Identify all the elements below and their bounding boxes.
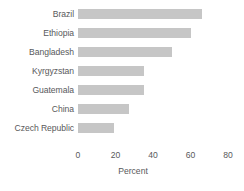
bar-bangladesh [78, 47, 172, 57]
bar-brazil [78, 9, 202, 19]
bar-row: Kyrgyzstan [0, 61, 244, 80]
x-tick-label: 0 [76, 150, 81, 160]
category-label: Guatemala [32, 85, 74, 95]
x-axis: 0 20 40 60 80 [0, 150, 244, 164]
category-label: Kyrgyzstan [32, 66, 74, 76]
bar-row: Czech Republic [0, 118, 244, 137]
bar-track [78, 9, 202, 19]
bar-ethiopia [78, 28, 191, 38]
x-axis-title: Percent [0, 166, 244, 176]
category-label: Ethiopia [43, 28, 74, 38]
bar-china [78, 104, 129, 114]
bar-kyrgyzstan [78, 66, 144, 76]
x-tick-label: 40 [148, 150, 158, 160]
bar-chart: Brazil Ethiopia Bangladesh Kyrgyzstan Gu… [0, 0, 244, 191]
bar-track [78, 66, 144, 76]
category-label: Brazil [53, 9, 74, 19]
bar-czech-republic [78, 123, 114, 133]
bar-track [78, 104, 129, 114]
bar-track [78, 28, 191, 38]
bar-track [78, 47, 172, 57]
bar-track [78, 123, 114, 133]
category-label: China [52, 104, 74, 114]
x-axis-title-text: Percent [118, 166, 148, 176]
bar-row: Ethiopia [0, 23, 244, 42]
bar-row: Guatemala [0, 80, 244, 99]
category-label: Bangladesh [29, 47, 74, 57]
bar-guatemala [78, 85, 144, 95]
x-tick-label: 60 [186, 150, 196, 160]
bar-row: Brazil [0, 4, 244, 23]
bar-track [78, 85, 144, 95]
x-tick-label: 80 [223, 150, 233, 160]
bar-row: Bangladesh [0, 42, 244, 61]
x-tick-label: 20 [111, 150, 121, 160]
category-label: Czech Republic [15, 123, 75, 133]
bar-row: China [0, 99, 244, 118]
